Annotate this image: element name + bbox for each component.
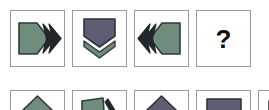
cell-2-graphic xyxy=(76,14,123,63)
option-b-graphic xyxy=(75,91,124,110)
puzzle-option-e[interactable] xyxy=(258,90,269,110)
chevron-diagonal-dark-icon xyxy=(105,99,119,110)
shield-down-purple-icon xyxy=(84,19,115,47)
pentagon-up-green-icon xyxy=(22,96,53,110)
puzzle-option-d[interactable] xyxy=(196,90,251,110)
question-row: ? xyxy=(10,10,251,67)
puzzle-option-b[interactable] xyxy=(72,90,127,110)
puzzle-cell-4-answer-slot[interactable]: ? xyxy=(196,10,251,67)
question-mark-label: ? xyxy=(216,26,232,52)
puzzle-canvas: ? xyxy=(0,0,269,110)
puzzle-cell-1[interactable] xyxy=(10,10,65,67)
puzzle-option-c[interactable] xyxy=(134,90,189,110)
rectangle-purple-icon xyxy=(207,99,241,110)
pentagon-up-purple-icon xyxy=(146,96,177,110)
cell-3-graphic xyxy=(137,15,186,62)
options-row xyxy=(10,90,269,110)
option-e-graphic xyxy=(261,91,269,110)
puzzle-option-a[interactable] xyxy=(10,90,65,110)
option-d-graphic xyxy=(199,91,248,110)
quadrilateral-green-icon xyxy=(82,98,105,110)
puzzle-cell-3[interactable] xyxy=(134,10,189,67)
option-c-graphic xyxy=(137,91,186,110)
option-a-graphic xyxy=(13,91,62,110)
cell-1-graphic xyxy=(13,15,62,62)
puzzle-cell-2[interactable] xyxy=(72,10,127,67)
